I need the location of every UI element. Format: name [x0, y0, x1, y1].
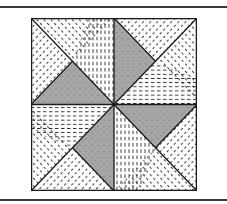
- quilt-block-diagram: [31, 18, 197, 191]
- bottom-rule: [0, 199, 227, 201]
- top-rule: [0, 6, 227, 8]
- block-outlines: [31, 18, 197, 191]
